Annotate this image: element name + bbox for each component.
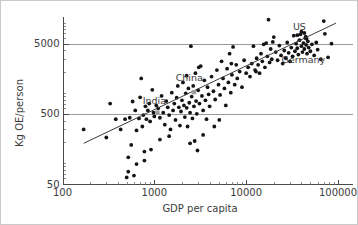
data-point: [135, 162, 139, 166]
data-point: [174, 118, 178, 122]
data-point: [224, 103, 228, 107]
data-point: [259, 52, 263, 56]
data-point: [292, 34, 296, 38]
data-point: [187, 101, 191, 105]
data-point: [264, 41, 268, 45]
data-point: [308, 49, 312, 53]
data-point: [218, 93, 222, 97]
data-point: [138, 95, 142, 99]
data-point: [177, 105, 181, 109]
data-point: [128, 116, 132, 120]
data-point: [125, 176, 129, 180]
data-point: [191, 84, 195, 88]
annotation-germany: Germany: [282, 54, 326, 65]
data-point: [183, 115, 187, 119]
data-point: [148, 120, 152, 124]
data-point: [267, 18, 271, 22]
data-point: [152, 111, 156, 115]
data-point: [229, 91, 233, 95]
data-point: [323, 32, 327, 36]
data-point: [178, 124, 182, 128]
data-point: [314, 41, 318, 45]
data-point: [150, 88, 154, 92]
data-point: [276, 58, 280, 62]
x-tick-label-10000: 10000: [230, 187, 262, 198]
data-point: [322, 19, 326, 23]
data-point: [220, 59, 224, 63]
data-point: [114, 117, 118, 121]
data-point: [206, 85, 210, 89]
data-point: [163, 123, 167, 127]
data-point: [186, 125, 190, 129]
data-point: [188, 111, 192, 115]
data-point: [277, 44, 281, 48]
data-point: [302, 47, 306, 51]
data-point: [139, 77, 143, 81]
data-point: [167, 134, 171, 138]
data-point: [131, 100, 135, 104]
data-point: [244, 71, 248, 75]
data-point: [158, 138, 162, 142]
data-point: [300, 44, 304, 48]
data-point: [187, 87, 191, 91]
x-axis-title: GDP per capita: [162, 203, 237, 214]
data-point: [133, 108, 137, 112]
y-tick-label-50: 50: [47, 179, 60, 190]
data-point: [195, 112, 199, 116]
data-point: [201, 108, 205, 112]
data-point: [293, 49, 297, 53]
data-point: [217, 118, 221, 122]
data-point: [123, 117, 127, 121]
y-tick-label-5000: 5000: [34, 38, 59, 49]
data-point: [226, 81, 230, 85]
data-point: [208, 104, 212, 108]
data-point: [176, 84, 180, 88]
data-point: [185, 106, 189, 110]
data-point: [268, 61, 272, 65]
data-point: [190, 95, 194, 99]
data-point: [188, 141, 192, 145]
data-point: [212, 89, 216, 93]
data-point: [256, 63, 260, 67]
data-point: [272, 35, 276, 39]
data-point: [326, 55, 330, 59]
data-point: [194, 99, 198, 103]
data-point: [255, 56, 259, 60]
data-point: [254, 70, 258, 74]
data-point: [158, 116, 162, 120]
data-point: [161, 111, 165, 115]
data-point: [240, 85, 244, 89]
data-point: [132, 174, 136, 178]
data-point: [229, 62, 233, 66]
data-point: [149, 148, 153, 152]
data-point: [215, 68, 219, 72]
data-point: [238, 70, 242, 74]
data-point: [285, 41, 289, 45]
data-point: [270, 57, 274, 61]
data-point: [316, 48, 320, 52]
trend-line: [84, 23, 336, 143]
data-point: [126, 170, 130, 174]
data-point: [180, 98, 184, 102]
data-point: [225, 67, 229, 71]
data-point: [196, 149, 200, 153]
data-point: [228, 52, 232, 56]
data-point: [119, 127, 123, 131]
data-point: [169, 127, 173, 131]
data-point: [207, 92, 211, 96]
data-point: [126, 155, 130, 159]
x-tick-label-1000: 1000: [142, 187, 167, 198]
data-point: [223, 87, 227, 91]
data-point: [231, 45, 235, 49]
data-point: [289, 46, 293, 50]
y-axis-title: Kg OE/person: [14, 79, 25, 147]
data-point: [263, 65, 267, 69]
data-point: [234, 63, 238, 67]
data-point: [192, 104, 196, 108]
data-point: [200, 94, 204, 98]
data-point: [269, 47, 273, 51]
regression-line: [84, 23, 336, 143]
data-point: [233, 83, 237, 87]
data-point: [82, 127, 86, 131]
data-point: [213, 98, 217, 102]
